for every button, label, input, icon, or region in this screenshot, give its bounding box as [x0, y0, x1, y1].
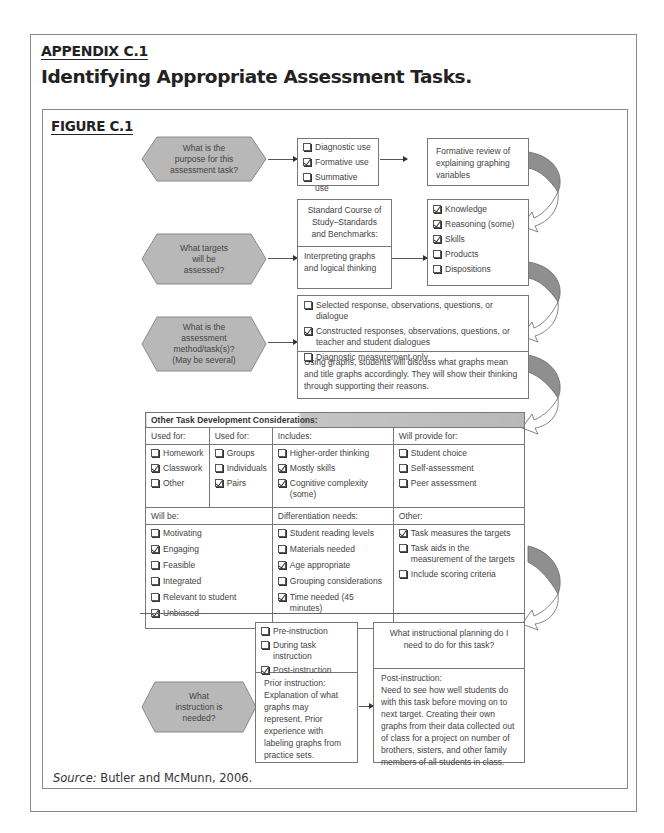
- checkbox-label: Motivating: [163, 528, 202, 539]
- checked-box-icon[interactable]: [278, 464, 286, 472]
- checkbox-label: Include scoring criteria: [411, 569, 496, 580]
- checked-box-icon[interactable]: [151, 545, 159, 553]
- unchecked-box-icon[interactable]: [278, 449, 286, 457]
- unchecked-box-icon[interactable]: [278, 545, 286, 553]
- checkbox-label: Diagnostic use: [315, 142, 371, 153]
- planning-heading: What instructional planning do I need to…: [374, 623, 524, 669]
- unchecked-box-icon[interactable]: [278, 529, 286, 537]
- unchecked-box-icon[interactable]: [399, 449, 407, 457]
- checkbox-item[interactable]: Task aids in the measurement of the targ…: [399, 543, 519, 565]
- unchecked-box-icon[interactable]: [151, 593, 159, 601]
- checked-box-icon[interactable]: [433, 220, 441, 228]
- checkbox-item[interactable]: Time needed (45 minutes): [278, 592, 388, 614]
- checkbox-item[interactable]: Knowledge: [433, 204, 523, 215]
- checkbox-item[interactable]: Age appropriate: [278, 560, 388, 571]
- checkbox-label: Summative use: [315, 172, 373, 194]
- checkbox-item[interactable]: Pairs: [215, 478, 267, 489]
- unchecked-box-icon[interactable]: [215, 449, 223, 457]
- unchecked-box-icon[interactable]: [215, 464, 223, 472]
- checked-box-icon[interactable]: [278, 561, 286, 569]
- unchecked-box-icon[interactable]: [151, 529, 159, 537]
- arrow-right-icon: [268, 342, 297, 343]
- checkbox-item[interactable]: Constructed responses, observations, que…: [304, 326, 522, 348]
- checkbox-item[interactable]: Individuals: [215, 463, 267, 474]
- checkbox-item[interactable]: Reasoning (some): [433, 219, 523, 230]
- checked-box-icon[interactable]: [278, 593, 286, 601]
- standards-heading: Standard Course of Study–Standards and B…: [298, 200, 391, 247]
- checked-box-icon[interactable]: [151, 464, 159, 472]
- checkbox-item[interactable]: Integrated: [151, 576, 267, 587]
- checkbox-label: Cognitive complexity (some): [290, 478, 388, 500]
- checkbox-item[interactable]: Materials needed: [278, 544, 388, 555]
- unchecked-box-icon[interactable]: [261, 627, 269, 635]
- checkbox-item[interactable]: Feasible: [151, 560, 267, 571]
- checkbox-label: Engaging: [163, 544, 199, 555]
- checkbox-label: Task aids in the measurement of the targ…: [411, 543, 519, 565]
- checkbox-item[interactable]: Relevant to student: [151, 592, 267, 603]
- checkbox-item[interactable]: Pre-instruction: [261, 626, 352, 637]
- checkbox-item[interactable]: Cognitive complexity (some): [278, 478, 388, 500]
- unchecked-box-icon[interactable]: [151, 577, 159, 585]
- checkbox-item[interactable]: Self-assessment: [399, 463, 519, 474]
- purpose-result-box: Formative review of explaining graphing …: [427, 138, 529, 186]
- section-divider: [140, 613, 524, 614]
- checkbox-item[interactable]: Mostly skills: [278, 463, 388, 474]
- checkbox-label: Task measures the targets: [411, 528, 511, 539]
- unchecked-box-icon[interactable]: [399, 464, 407, 472]
- checkbox-label: Dispositions: [445, 264, 491, 275]
- checked-box-icon[interactable]: [261, 666, 269, 674]
- checkbox-item[interactable]: Groups: [215, 448, 267, 459]
- checked-box-icon[interactable]: [433, 205, 441, 213]
- unchecked-box-icon[interactable]: [304, 353, 312, 361]
- checkbox-item[interactable]: Student reading levels: [278, 528, 388, 539]
- arrow-right-icon: [392, 258, 427, 259]
- unchecked-box-icon[interactable]: [433, 265, 441, 273]
- unchecked-box-icon[interactable]: [399, 479, 407, 487]
- checkbox-item[interactable]: Homework: [151, 448, 204, 459]
- checkbox-item[interactable]: Task measures the targets: [399, 528, 519, 539]
- checkbox-item[interactable]: Summative use: [303, 172, 373, 194]
- checkbox-item[interactable]: Student choice: [399, 448, 519, 459]
- checkbox-item[interactable]: Grouping considerations: [278, 576, 388, 587]
- unchecked-box-icon[interactable]: [399, 544, 407, 552]
- checkbox-item[interactable]: Motivating: [151, 528, 267, 539]
- checkbox-label: Constructed responses, observations, que…: [316, 326, 522, 348]
- checkbox-item[interactable]: During task instruction: [261, 640, 352, 662]
- unchecked-box-icon[interactable]: [151, 449, 159, 457]
- checkbox-label: Integrated: [163, 576, 201, 587]
- checkbox-item[interactable]: Formative use: [303, 157, 373, 168]
- unchecked-box-icon[interactable]: [261, 641, 269, 649]
- unchecked-box-icon[interactable]: [151, 479, 159, 487]
- unchecked-box-icon[interactable]: [278, 577, 286, 585]
- checkbox-item[interactable]: Include scoring criteria: [399, 569, 519, 580]
- checkbox-label: Student reading levels: [290, 528, 374, 539]
- unchecked-box-icon[interactable]: [399, 570, 407, 578]
- checkbox-item[interactable]: Peer assessment: [399, 478, 519, 489]
- standards-box: Standard Course of Study–Standards and B…: [297, 199, 392, 289]
- unchecked-box-icon[interactable]: [303, 173, 311, 181]
- checkbox-item[interactable]: Products: [433, 249, 523, 260]
- checkbox-label: Mostly skills: [290, 463, 335, 474]
- checked-box-icon[interactable]: [303, 158, 311, 166]
- checkbox-item[interactable]: Engaging: [151, 544, 267, 555]
- checked-box-icon[interactable]: [215, 479, 223, 487]
- checked-box-icon[interactable]: [433, 235, 441, 243]
- checkbox-item[interactable]: Skills: [433, 234, 523, 245]
- checkbox-label: Classwork: [163, 463, 202, 474]
- unchecked-box-icon[interactable]: [304, 301, 312, 309]
- checkbox-item[interactable]: Diagnostic use: [303, 142, 373, 153]
- unchecked-box-icon[interactable]: [303, 143, 311, 151]
- arrow-right-icon: [268, 159, 297, 160]
- checked-box-icon[interactable]: [399, 529, 407, 537]
- checked-box-icon[interactable]: [278, 479, 286, 487]
- checkbox-label: Higher-order thinking: [290, 448, 369, 459]
- checkbox-item[interactable]: Other: [151, 478, 204, 489]
- checkbox-label: Reasoning (some): [445, 219, 514, 230]
- checked-box-icon[interactable]: [304, 327, 312, 335]
- unchecked-box-icon[interactable]: [151, 561, 159, 569]
- checkbox-item[interactable]: Classwork: [151, 463, 204, 474]
- checkbox-item[interactable]: Selected response, observations, questio…: [304, 300, 522, 322]
- checkbox-item[interactable]: Higher-order thinking: [278, 448, 388, 459]
- checkbox-item[interactable]: Dispositions: [433, 264, 523, 275]
- unchecked-box-icon[interactable]: [433, 250, 441, 258]
